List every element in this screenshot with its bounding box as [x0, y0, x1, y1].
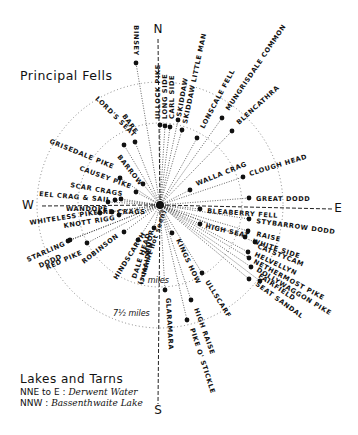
radial-fells-chart: BINSEYULLOCK PIKELONG SIDECARL SIDESKIDD… [0, 0, 358, 435]
lake-name: Derwent Water [68, 387, 137, 397]
lake-row: NNW : Bassenthwaite Lake [20, 398, 143, 408]
axis-e [160, 205, 332, 209]
fell-dot [249, 265, 254, 270]
sight-line [160, 131, 232, 205]
fell-dot [180, 128, 185, 133]
fell-dot [176, 118, 181, 123]
fell-dot [188, 188, 193, 193]
fell-dot [241, 175, 246, 180]
compass-n: N [154, 22, 163, 36]
fell-dot [158, 123, 163, 128]
fell-dot [133, 140, 138, 145]
sight-line [160, 198, 249, 205]
compass-s: S [154, 403, 162, 417]
sight-line [160, 138, 197, 205]
fell-dot [198, 222, 203, 227]
compass-e: E [334, 201, 342, 215]
fell-dot [247, 256, 252, 261]
fell-dot [247, 277, 252, 282]
fell-dot [122, 143, 127, 148]
lake-bearing: NNE to E : [20, 387, 66, 397]
fell-dot [195, 136, 200, 141]
sight-line [121, 199, 160, 205]
fell-dot [168, 125, 173, 130]
fell-dot [198, 207, 203, 212]
fell-label: KINGS HOW [174, 237, 202, 285]
fell-dot [230, 129, 235, 134]
fell-dot [200, 271, 205, 276]
sight-line [160, 127, 170, 205]
compass-w: W [22, 198, 34, 212]
fell-label: GREAT DODD [256, 195, 310, 203]
fell-label: GLARAMARA [164, 298, 175, 351]
lake-bearing: NNW : [20, 398, 48, 408]
fell-dot [185, 318, 190, 323]
fell-label: WALLA CRAG [195, 160, 248, 188]
fell-label: ARD CRAGS [97, 208, 146, 216]
fell-label: ULLSCARF [203, 279, 232, 320]
fells-diagram: BINSEYULLOCK PIKELONG SIDECARL SIDESKIDD… [0, 0, 358, 435]
fell-dot [163, 288, 168, 293]
fell-dot [66, 239, 71, 244]
lake-name: Bassenthwaite Lake [51, 398, 143, 408]
sight-line [160, 126, 165, 205]
axis-n [158, 39, 160, 205]
viewpoint-center [156, 201, 164, 209]
sight-line [143, 184, 160, 205]
fell-dot [134, 61, 139, 66]
ring-label: 5 miles [140, 276, 169, 285]
fell-dot [220, 116, 225, 121]
fell-dot [134, 190, 139, 195]
fell-dot [122, 230, 127, 235]
ring-labels: 5 miles7½ miles [113, 276, 169, 318]
fell-dot [247, 196, 252, 201]
fell-label: CLOUGH HEAD [248, 153, 308, 178]
fell-dot [85, 241, 90, 246]
lakes-title: Lakes and Tarns [20, 372, 123, 386]
fell-label: BINSEY [132, 25, 140, 56]
fell-dot [246, 250, 251, 255]
ring-label: 7½ miles [113, 309, 150, 318]
fell-dot [163, 124, 168, 129]
fell-label: ROBINSON [80, 232, 120, 266]
fell-dot [189, 298, 194, 303]
fell-label: MUNGRISDALE COMMON [224, 23, 288, 112]
fell-dot [113, 198, 118, 203]
lake-row: NNE to E : Derwent Water [20, 387, 138, 397]
diagram-title: Principal Fells [20, 68, 112, 83]
fell-dot [170, 231, 175, 236]
